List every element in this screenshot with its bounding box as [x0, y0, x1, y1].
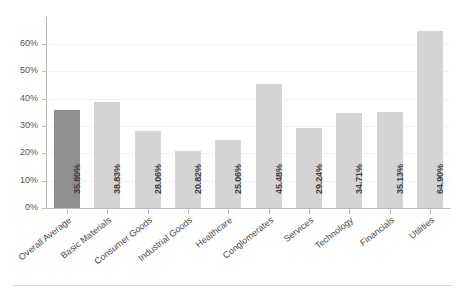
x-category-label-text: Services — [282, 215, 315, 244]
gridline — [47, 99, 450, 100]
y-tick-mark — [42, 153, 47, 154]
bar-value-label: 45.48% — [274, 164, 284, 194]
y-tick-label: 60% — [4, 39, 38, 48]
gridline — [47, 44, 450, 45]
y-tick-label: 10% — [4, 176, 38, 185]
y-tick-label: 0% — [4, 203, 38, 212]
x-category-label-text: Financials — [358, 215, 396, 248]
x-category-label-text: Technology — [313, 215, 355, 251]
y-tick-mark — [42, 126, 47, 127]
bar[interactable]: 34.71% — [336, 113, 362, 208]
y-tick-label: 30% — [4, 121, 38, 130]
y-tick-label: 40% — [4, 94, 38, 103]
bar-chart: 0%10%20%30%40%50%60% 35.80%38.83%28.06%2… — [0, 0, 465, 293]
bar-value-label: 35.13% — [395, 164, 405, 194]
y-tick-mark — [42, 44, 47, 45]
bottom-separator-rule — [13, 285, 453, 286]
bar[interactable]: 64.90% — [417, 31, 443, 208]
y-tick-mark — [42, 208, 47, 209]
bar[interactable]: 35.80% — [54, 110, 80, 208]
gridline — [47, 71, 450, 72]
x-category-label-text: Utilities — [407, 215, 436, 241]
y-tick-mark — [42, 71, 47, 72]
y-tick-mark — [42, 99, 47, 100]
y-tick-label: 50% — [4, 66, 38, 75]
y-tick-label: 20% — [4, 148, 38, 157]
y-tick-mark — [42, 181, 47, 182]
bar-value-label: 64.90% — [435, 164, 445, 194]
bar-value-label: 34.71% — [354, 164, 364, 194]
bar-value-label: 35.80% — [72, 164, 82, 194]
x-category-label-text: Healthcare — [194, 215, 234, 250]
